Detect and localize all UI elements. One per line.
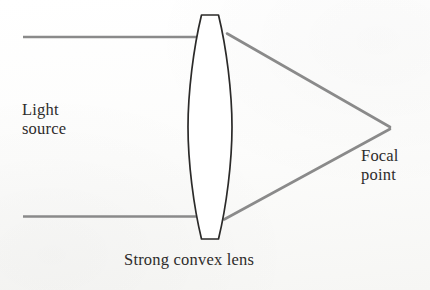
label-lens-caption: Strong convex lens [124,250,254,269]
diagram-canvas: Light source Focal point Strong convex l… [0,0,430,290]
optics-ray-diagram-svg [0,0,430,290]
convex-lens-body [188,15,232,239]
label-focal-point: Focal point [361,146,399,184]
upper-converging-ray [227,34,390,128]
label-light-source: Light source [22,100,66,138]
refracted-ray-group [224,34,390,220]
